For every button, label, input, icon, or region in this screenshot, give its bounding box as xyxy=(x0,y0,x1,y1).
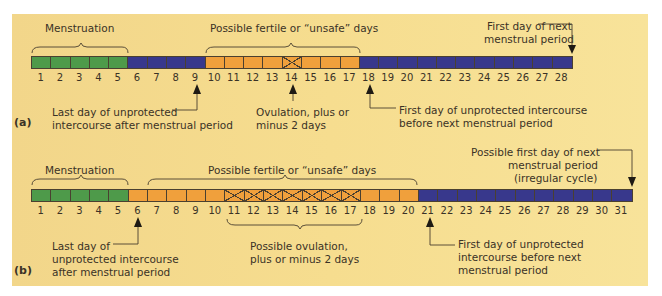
chart-b-ovulation-brace xyxy=(227,219,362,229)
chart-a-last-day-arrowhead xyxy=(193,84,201,94)
chart-b-next-period-arrowhead xyxy=(628,177,636,187)
chart-b-next-period-connector xyxy=(598,150,632,178)
chart-a-ovulation-arrowhead xyxy=(289,84,297,94)
chart-a-next-period-arrowhead xyxy=(568,45,576,54)
chart-a-next-period-connector xyxy=(538,24,572,46)
chart-b-first-day-connector xyxy=(430,226,455,245)
annotations-overlay xyxy=(0,0,662,296)
chart-a-fertile-brace xyxy=(206,43,360,53)
chart-b-menstruation-brace xyxy=(32,175,128,185)
chart-a-menstruation-brace xyxy=(32,43,128,53)
chart-b-last-day-connector xyxy=(113,226,138,244)
chart-b-first-day-arrowhead xyxy=(426,217,434,227)
chart-b-last-day-arrowhead xyxy=(134,217,142,227)
chart-a-first-day-arrowhead xyxy=(366,84,374,94)
chart-a-first-day-connector xyxy=(370,93,396,108)
chart-a-last-day-connector xyxy=(172,93,197,110)
chart-b-fertile-brace xyxy=(148,175,417,185)
